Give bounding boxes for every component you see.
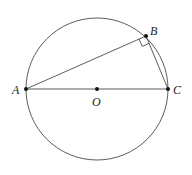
segment-ab <box>26 36 146 89</box>
point-b <box>144 34 148 38</box>
segment-bc <box>146 36 168 89</box>
label-o: O <box>92 95 101 109</box>
point-a <box>24 87 28 91</box>
point-c <box>166 87 170 91</box>
label-a: A <box>11 83 20 97</box>
label-c: C <box>173 83 182 97</box>
point-o <box>95 87 99 91</box>
label-b: B <box>150 24 158 38</box>
geometry-diagram: A B C O <box>0 0 192 175</box>
